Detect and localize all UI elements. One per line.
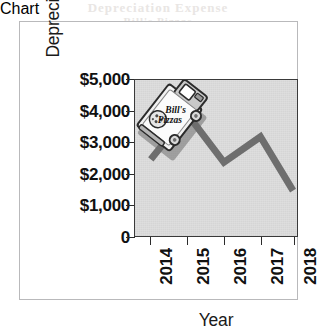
chart-figure-card: Depreciation Expense $5,000 $4,000 $3,00… — [19, 21, 298, 300]
plot-area: Bill's Pizzas — [134, 79, 298, 237]
y-tick-label-3000: $3,000 — [58, 134, 130, 151]
y-axis-tick-labels: $5,000 $4,000 $3,000 $2,000 $1,000 0 — [58, 79, 130, 237]
line-series-svg — [135, 80, 297, 236]
x-tick-mark-2016 — [224, 237, 225, 245]
x-tick-label-2016: 2016 — [232, 248, 250, 308]
x-tick-label-2014: 2014 — [158, 248, 176, 308]
y-tick-label-1000: $1,000 — [58, 197, 130, 214]
y-tick-mark-0 — [126, 237, 135, 238]
x-tick-mark-2017 — [261, 237, 262, 245]
x-tick-mark-2014 — [150, 237, 151, 245]
line-series-depreciation-expense — [151, 114, 293, 191]
y-tick-label-4000: $4,000 — [58, 102, 130, 119]
x-tick-mark-2018 — [294, 237, 295, 245]
x-axis-title: Year — [134, 310, 298, 330]
x-tick-label-2015: 2015 — [195, 248, 213, 308]
x-tick-label-2018: 2018 — [302, 248, 320, 308]
y-axis-title: Depreciation Expense — [41, 0, 65, 68]
x-tick-mark-2015 — [187, 237, 188, 245]
y-tick-label-5000: $5,000 — [58, 71, 130, 88]
x-tick-label-2017: 2017 — [269, 248, 287, 308]
y-tick-label-2000: $2,000 — [58, 165, 130, 182]
y-tick-label-0: 0 — [58, 229, 130, 246]
